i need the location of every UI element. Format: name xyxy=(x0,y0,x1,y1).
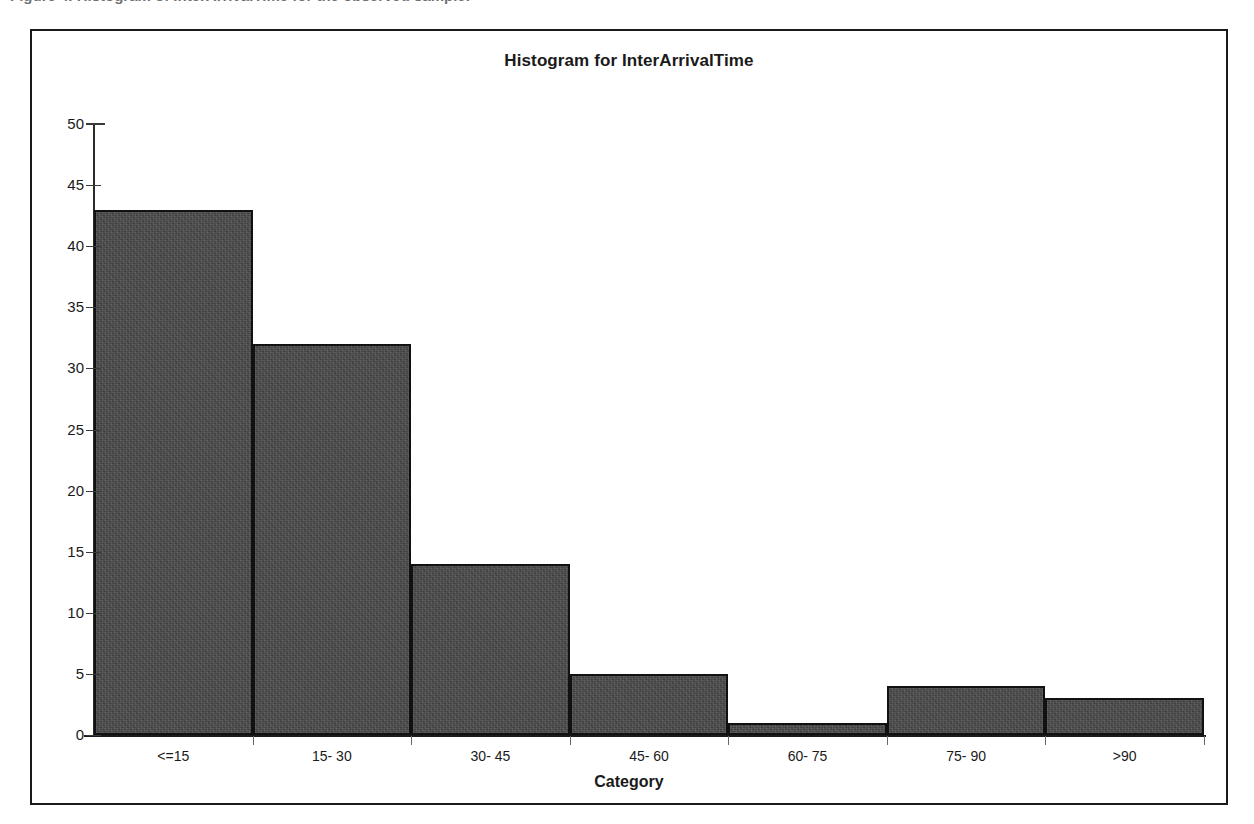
y-axis-tick xyxy=(86,613,101,614)
y-axis-tick xyxy=(86,491,101,492)
y-axis-tick-label: 10 xyxy=(38,605,84,620)
y-axis-tick-label: 40 xyxy=(38,238,84,253)
x-axis-tick xyxy=(1045,736,1046,745)
figure-frame: Histogram for InterArrivalTime 051015202… xyxy=(30,29,1228,805)
x-axis-tick xyxy=(411,736,412,745)
histogram-bar xyxy=(94,210,253,735)
x-axis-title: Category xyxy=(32,773,1226,791)
y-axis-tick-label: 30 xyxy=(38,360,84,375)
y-axis-tick-label: 5 xyxy=(38,666,84,681)
x-axis-tick xyxy=(253,736,254,745)
y-axis-tick xyxy=(86,123,105,125)
figure-caption-text: Figure 4. Histogram of InterArrivalTime … xyxy=(10,0,470,4)
x-axis-category-label: 15- 30 xyxy=(253,748,412,764)
x-axis-category-label: <=15 xyxy=(94,748,253,764)
x-axis-category-label: 45- 60 xyxy=(570,748,729,764)
histogram-bar xyxy=(253,344,411,735)
y-axis-tick xyxy=(86,185,101,186)
histogram-bar xyxy=(887,686,1045,735)
y-axis-tick xyxy=(86,307,101,308)
histogram-bar xyxy=(1045,698,1204,735)
histogram-bar xyxy=(728,723,887,735)
x-axis-tick xyxy=(570,736,571,745)
x-axis-category-label: 75- 90 xyxy=(887,748,1046,764)
y-axis-tick-label: 15 xyxy=(38,544,84,559)
x-axis-tick xyxy=(1204,736,1205,745)
y-axis-tick xyxy=(86,552,101,553)
y-axis-tick-label: 45 xyxy=(38,177,84,192)
chart-title: Histogram for InterArrivalTime xyxy=(32,51,1226,71)
x-axis-tick xyxy=(728,736,729,745)
figure-caption-strip: Figure 4. Histogram of InterArrivalTime … xyxy=(0,0,1254,14)
x-axis-tick xyxy=(887,736,888,745)
y-axis-tick-label: 25 xyxy=(38,422,84,437)
y-axis-tick xyxy=(86,735,101,736)
y-axis-tick-label: 0 xyxy=(38,727,84,742)
y-axis-tick-label: 50 xyxy=(38,116,84,131)
y-axis-tick xyxy=(86,430,101,431)
histogram-bar xyxy=(411,564,570,735)
y-axis-tick-label: 35 xyxy=(38,299,84,314)
y-axis-labels: 05101520253035404550 xyxy=(32,31,84,807)
x-axis-category-label: >90 xyxy=(1045,748,1204,764)
plot-area xyxy=(94,124,1204,735)
histogram-bar xyxy=(570,674,728,735)
y-axis-tick-label: 20 xyxy=(38,483,84,498)
y-axis-tick xyxy=(86,246,101,247)
y-axis-tick xyxy=(86,368,101,369)
x-axis-category-label: 60- 75 xyxy=(728,748,887,764)
y-axis-tick xyxy=(86,674,101,675)
x-axis-category-label: 30- 45 xyxy=(411,748,570,764)
